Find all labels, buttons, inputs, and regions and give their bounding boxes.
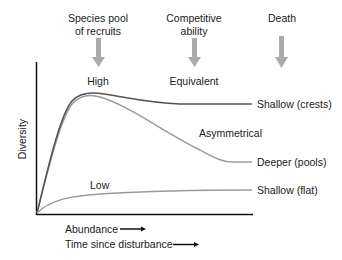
factor-competitive-ability-label: Competitive ability <box>166 12 221 38</box>
level-high-label: High <box>87 75 109 88</box>
factor-label-line1: Competitive <box>166 12 221 25</box>
factor-label-line2: ability <box>166 25 221 38</box>
factor-label-line1: Death <box>268 12 296 25</box>
curve-shallow-flat <box>37 190 252 213</box>
diagram-canvas <box>0 0 342 260</box>
deeper-pools-label: Deeper (pools) <box>257 156 326 169</box>
factor-death-label: Death <box>268 12 296 25</box>
factor-label-line1: Species pool <box>68 12 128 25</box>
curve-deeper-pools <box>37 95 252 213</box>
y-axis-label: Diversity <box>16 114 28 164</box>
arrow-down-icon <box>92 38 105 67</box>
shallow-flat-label: Shallow (flat) <box>257 184 318 197</box>
factor-species-pool-label: Species pool of recruits <box>68 12 128 38</box>
shallow-crests-label: Shallow (crests) <box>257 98 332 111</box>
curve-shallow-crests <box>37 93 252 213</box>
level-equivalent-label: Equivalent <box>169 75 218 88</box>
asymmetrical-label: Asymmetrical <box>199 127 262 140</box>
x-axis-label-time: Time since disturbance <box>65 238 173 251</box>
low-label: Low <box>90 179 109 192</box>
arrow-down-icon <box>275 36 288 68</box>
x-axis-label-abundance: Abundance <box>65 223 118 236</box>
factor-label-line2: of recruits <box>68 25 128 38</box>
arrow-right-icon <box>120 227 146 232</box>
arrow-down-icon <box>188 38 201 67</box>
arrow-right-icon <box>173 242 199 247</box>
